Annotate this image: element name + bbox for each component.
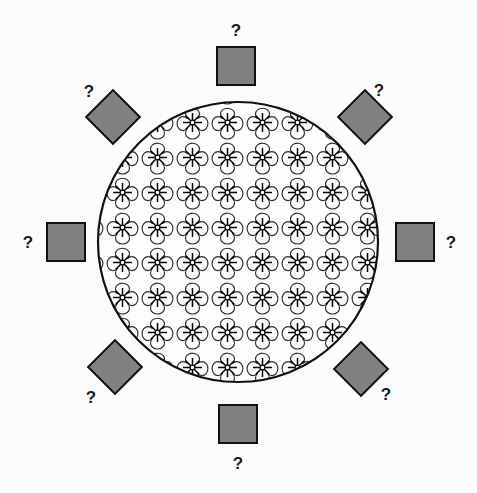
figure-svg (0, 0, 477, 493)
marker-right[interactable] (396, 223, 434, 261)
square-tile-left[interactable] (47, 223, 85, 261)
question-mark-top-right: ? (372, 82, 386, 99)
question-mark-right: ? (444, 234, 458, 251)
marker-top[interactable] (217, 47, 255, 85)
marker-left[interactable] (47, 223, 85, 261)
square-tile-right[interactable] (396, 223, 434, 261)
question-mark-bottom-right: ? (379, 386, 393, 403)
question-mark-top-left: ? (82, 83, 96, 100)
question-mark-top: ? (229, 22, 243, 39)
question-mark-left: ? (21, 234, 35, 251)
square-tile-top[interactable] (217, 47, 255, 85)
square-tile-bottom[interactable] (219, 405, 257, 443)
question-mark-bottom-left: ? (84, 389, 98, 406)
figure-canvas: ???????? (0, 0, 477, 493)
marker-bottom[interactable] (219, 405, 257, 443)
question-mark-bottom: ? (231, 455, 245, 472)
